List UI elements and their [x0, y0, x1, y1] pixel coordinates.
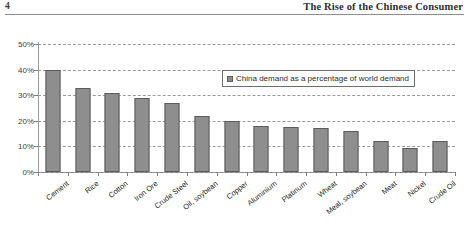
x-axis-label: Platinum: [280, 179, 309, 204]
x-axis-label: Cotton: [107, 179, 130, 200]
x-axis-tick-mark: [68, 172, 69, 176]
x-axis-tick-mark: [276, 172, 277, 176]
bar-slot: [217, 44, 247, 172]
x-axis-label: Wheat: [316, 179, 339, 199]
x-axis-label: Copper: [224, 179, 249, 201]
bar-slot: [425, 44, 455, 172]
bar[interactable]: [343, 131, 358, 172]
bar-slot: [306, 44, 336, 172]
x-axis-tick-mark: [187, 172, 188, 176]
bar-slot: [247, 44, 277, 172]
x-axis-label: Nickel: [406, 179, 428, 199]
bar[interactable]: [433, 141, 448, 172]
legend-swatch-icon: [227, 76, 233, 82]
bar[interactable]: [45, 70, 60, 172]
x-axis-tick-mark: [455, 172, 456, 176]
x-axis-label: Rice: [83, 179, 100, 195]
x-axis-tick-mark: [395, 172, 396, 176]
bar[interactable]: [373, 141, 388, 172]
bar-slot: [98, 44, 128, 172]
bar[interactable]: [254, 126, 269, 172]
y-axis-tick-label: 30%: [4, 91, 34, 100]
x-axis-label: Crude Oil: [427, 179, 458, 206]
bar-slot: [187, 44, 217, 172]
bar-slot: [395, 44, 425, 172]
y-axis-tick-label: 50%: [4, 40, 34, 49]
bar[interactable]: [224, 121, 239, 172]
page-number: 4: [5, 1, 10, 11]
y-axis-tick-label: 0%: [4, 168, 34, 177]
bar-slot: [276, 44, 306, 172]
bar[interactable]: [403, 148, 418, 172]
bar-slot: [38, 44, 68, 172]
bar[interactable]: [194, 116, 209, 172]
y-axis-tick-label: 40%: [4, 65, 34, 74]
y-axis-tick-labels: 0%10%20%30%40%50%: [0, 44, 34, 172]
bar[interactable]: [313, 128, 328, 172]
bar-chart: 0%10%20%30%40%50% China demand as a perc…: [0, 28, 469, 245]
bar-series: [38, 44, 455, 172]
x-axis-tick-mark: [336, 172, 337, 176]
y-axis-tick-label: 10%: [4, 142, 34, 151]
x-axis-label: Cement: [44, 179, 70, 202]
header-divider: [5, 14, 464, 15]
x-axis-tick-mark: [247, 172, 248, 176]
page-header: 4 The Rise of the Chinese Consumer: [0, 0, 469, 20]
bar-slot: [157, 44, 187, 172]
bar-slot: [127, 44, 157, 172]
bar-slot: [68, 44, 98, 172]
bar[interactable]: [284, 127, 299, 172]
x-axis-label: Aluminium: [246, 179, 279, 208]
x-axis-tick-mark: [425, 172, 426, 176]
bar[interactable]: [105, 93, 120, 172]
x-axis-tick-mark: [38, 172, 39, 176]
x-axis-tick-mark: [306, 172, 307, 176]
bar-slot: [336, 44, 366, 172]
x-axis-tick-mark: [157, 172, 158, 176]
bar[interactable]: [75, 88, 90, 172]
bar[interactable]: [165, 103, 180, 172]
x-axis-tick-mark: [127, 172, 128, 176]
running-head-title: The Rise of the Chinese Consumer: [303, 1, 463, 12]
x-axis-tick-mark: [366, 172, 367, 176]
bar[interactable]: [135, 98, 150, 172]
legend-label: China demand as a percentage of world de…: [236, 74, 409, 83]
chart-legend: China demand as a percentage of world de…: [222, 70, 415, 87]
x-axis-tick-mark: [217, 172, 218, 176]
bar-slot: [366, 44, 396, 172]
x-axis-label: Meat: [379, 179, 398, 196]
y-axis-tick-label: 20%: [4, 116, 34, 125]
x-axis-tick-mark: [98, 172, 99, 176]
